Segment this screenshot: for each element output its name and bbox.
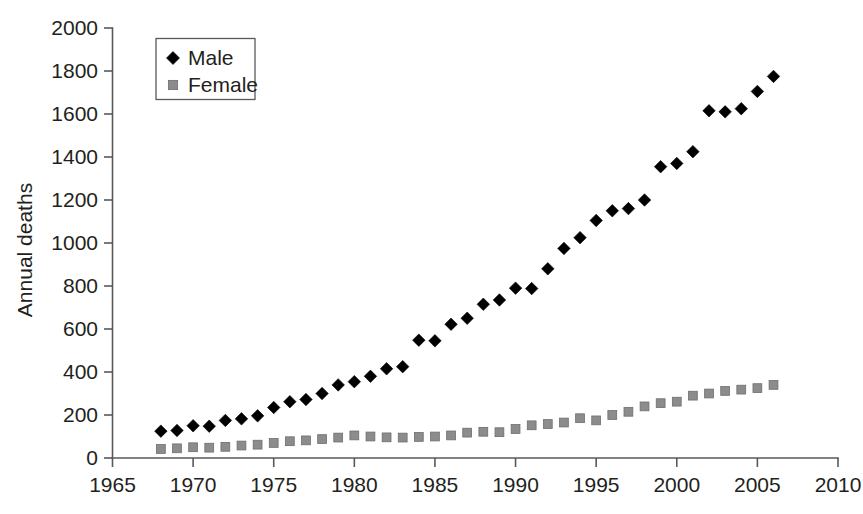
data-point-male-1985 [429,335,442,348]
data-point-female-1992 [543,420,552,429]
y-tick-label-1600: 1600 [51,102,98,125]
data-point-female-1975 [269,439,278,448]
data-point-male-1987 [461,312,474,325]
y-tick-label-2000: 2000 [51,16,98,39]
x-tick-label-1990: 1990 [492,473,539,496]
data-point-male-2002 [703,105,716,118]
data-point-male-2000 [671,157,684,170]
data-point-male-1998 [638,194,651,207]
data-point-male-1978 [316,387,329,400]
data-point-male-1968 [155,425,168,438]
x-axis-ticks [113,458,839,467]
y-tick-label-1400: 1400 [51,145,98,168]
x-tick-label-1995: 1995 [573,473,620,496]
data-point-female-1994 [576,414,585,423]
x-tick-label-1965: 1965 [89,473,136,496]
data-point-female-2004 [737,385,746,394]
data-point-female-1997 [624,407,633,416]
data-point-female-1976 [285,437,294,446]
data-point-male-2003 [719,106,732,119]
data-point-male-2006 [767,70,780,83]
x-axis-group: 1965197019751980198519901995200020052010 [89,458,861,496]
data-point-female-2003 [721,387,730,396]
data-point-female-1982 [382,433,391,442]
data-point-female-1970 [189,443,198,452]
data-point-male-1988 [477,298,490,311]
data-point-male-1969 [171,424,184,437]
data-point-male-1976 [284,395,297,408]
data-point-female-2000 [672,397,681,406]
data-point-male-1982 [380,363,393,376]
data-point-female-1981 [366,432,375,441]
data-point-male-1977 [300,393,313,406]
data-point-female-1978 [318,435,327,444]
data-point-male-1999 [654,160,667,173]
data-point-female-1999 [656,399,665,408]
data-point-female-1977 [302,436,311,445]
data-point-female-1991 [527,421,536,430]
data-point-male-1996 [606,205,619,218]
data-point-male-1991 [525,282,538,295]
data-point-female-2001 [688,391,697,400]
y-tick-label-600: 600 [63,317,98,340]
data-point-male-1980 [348,375,361,388]
data-point-male-1992 [542,263,555,276]
y-tick-label-800: 800 [63,274,98,297]
y-tick-label-1800: 1800 [51,59,98,82]
data-point-female-2006 [769,380,778,389]
series-female [156,380,777,453]
y-tick-label-400: 400 [63,360,98,383]
annual-deaths-scatter-chart: 0200400600800100012001400160018002000 19… [0,0,863,514]
data-point-female-1986 [447,431,456,440]
data-point-female-1988 [479,427,488,436]
data-point-female-1998 [640,402,649,411]
data-point-female-2005 [753,384,762,393]
data-point-male-1995 [590,214,603,227]
data-point-male-1972 [219,414,232,427]
x-tick-label-2005: 2005 [734,473,781,496]
data-series-layer [155,70,780,453]
data-point-female-1973 [237,441,246,450]
data-point-male-2005 [751,85,764,98]
data-point-male-1979 [332,379,345,392]
data-point-female-1990 [511,425,520,434]
x-tick-label-2000: 2000 [653,473,700,496]
y-axis-group: 0200400600800100012001400160018002000 [51,16,112,469]
data-point-female-1971 [205,443,214,452]
series-male [155,70,780,437]
y-axis-tick-labels: 0200400600800100012001400160018002000 [51,16,98,469]
data-point-female-2002 [705,389,714,398]
data-point-female-1974 [253,440,262,449]
data-point-male-2004 [735,102,748,115]
data-point-male-1986 [445,318,458,331]
data-point-female-1983 [398,433,407,442]
data-point-male-1993 [558,242,571,255]
data-point-female-1969 [173,444,182,453]
data-point-male-1981 [364,370,377,383]
data-point-female-1995 [592,416,601,425]
data-point-male-1970 [187,420,200,433]
y-axis-title: Annual deaths [13,183,36,317]
y-tick-label-200: 200 [63,403,98,426]
data-point-male-1971 [203,420,216,433]
data-point-female-1980 [350,431,359,440]
data-point-male-1974 [251,410,264,423]
data-point-male-1997 [622,202,635,215]
data-point-female-1993 [560,418,569,427]
data-point-male-1983 [396,360,409,373]
x-tick-label-2010: 2010 [815,473,862,496]
y-tick-label-1000: 1000 [51,231,98,254]
data-point-male-1984 [413,334,426,347]
data-point-female-1989 [495,428,504,437]
data-point-male-1989 [493,294,506,307]
x-axis-tick-labels: 1965197019751980198519901995200020052010 [89,473,861,496]
legend-label-male: Male [188,46,234,69]
data-point-male-1975 [267,401,280,414]
data-point-female-1987 [463,428,472,437]
legend-marker-female-icon [168,80,177,89]
data-point-female-1984 [414,433,423,442]
data-point-female-1972 [221,442,230,451]
x-tick-label-1985: 1985 [412,473,459,496]
legend-label-female: Female [188,73,258,96]
chart-container: 0200400600800100012001400160018002000 19… [0,0,863,514]
